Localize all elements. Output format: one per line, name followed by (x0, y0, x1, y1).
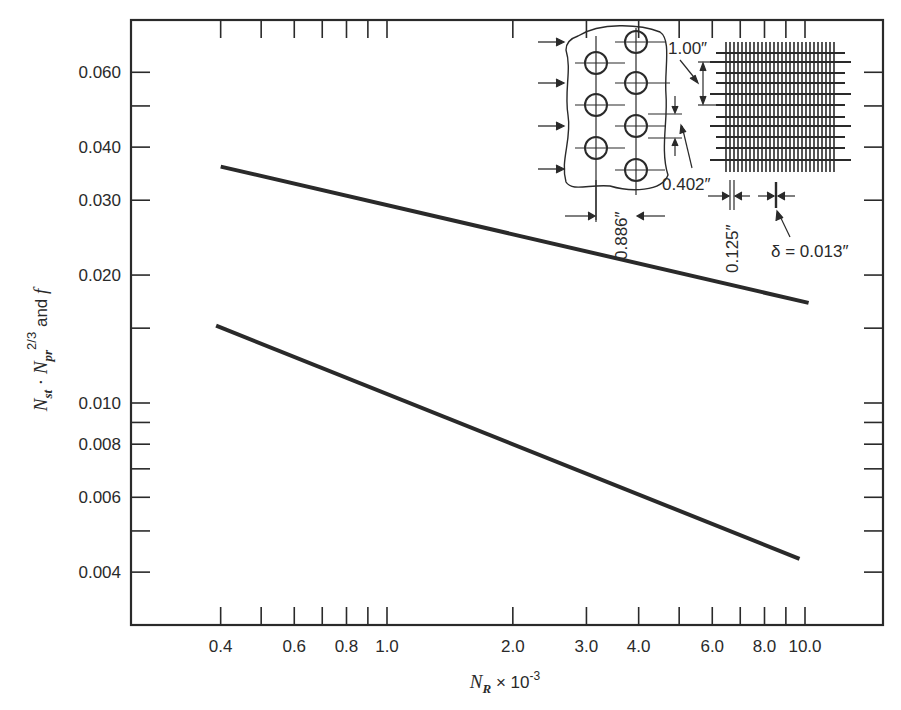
chart-figure: 0.40.60.81.02.03.04.06.08.010.00.0600.04… (0, 0, 901, 710)
y-tick-label: 0.006 (78, 488, 121, 507)
x-tick-label: 1.0 (375, 637, 399, 656)
dim-label-row-spacing: 0.886″ (612, 211, 631, 260)
dim-label-tube-spacing: 0.402″ (662, 175, 711, 194)
series-friction-factor-line (221, 167, 809, 303)
x-tick-label: 10.0 (788, 637, 821, 656)
wire-mesh-screen (710, 42, 851, 172)
x-tick-label: 4.0 (627, 637, 651, 656)
y-tick-label: 0.004 (78, 563, 121, 582)
x-tick-label: 0.8 (335, 637, 359, 656)
x-tick-label: 0.4 (209, 637, 233, 656)
tube-bundle-outline (564, 26, 668, 190)
y-tick-label: 0.008 (78, 435, 121, 454)
dim-label-wire-diameter: δ = 0.013″ (771, 242, 848, 261)
x-axis-label: NR × 10-3 (469, 669, 541, 696)
dim-label-pitch: 1.00″ (668, 39, 707, 58)
series-stanton-number-line (216, 326, 799, 559)
y-tick-label: 0.020 (78, 266, 121, 285)
y-axis-label: Nst · Npr2/3 and f (24, 286, 55, 412)
dim-label-mesh-pitch: 0.125″ (723, 224, 742, 273)
x-tick-label: 0.6 (282, 637, 306, 656)
x-tick-label: 8.0 (753, 637, 777, 656)
y-tick-label: 0.010 (78, 394, 121, 413)
y-tick-label: 0.040 (78, 138, 121, 157)
y-tick-label: 0.060 (78, 63, 121, 82)
data-series (216, 167, 809, 559)
x-tick-label: 2.0 (501, 637, 525, 656)
axis-tick-labels: 0.40.60.81.02.03.04.06.08.010.00.0600.04… (78, 63, 821, 656)
flow-arrows (538, 38, 564, 173)
x-tick-label: 3.0 (575, 637, 599, 656)
x-tick-label: 6.0 (700, 637, 724, 656)
y-tick-label: 0.030 (78, 191, 121, 210)
